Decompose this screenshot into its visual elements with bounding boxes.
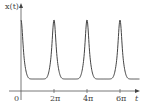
x-axis-label: t <box>135 94 139 103</box>
tick-label-4pi: 4π <box>83 94 93 103</box>
tick-label-6pi: 6π <box>116 94 126 103</box>
plot-canvas: x(t) t 0 2π 4π 6π <box>0 0 147 110</box>
tick-label-2pi: 2π <box>50 94 60 103</box>
data-curve <box>21 20 139 79</box>
x-axis-arrow-icon <box>135 89 140 93</box>
y-axis-arrow-icon <box>19 3 23 8</box>
y-axis-label: x(t) <box>5 2 19 11</box>
origin-label: 0 <box>14 94 19 103</box>
